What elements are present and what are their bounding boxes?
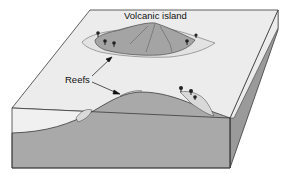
label-reefs: Reefs xyxy=(65,74,90,85)
volcanic-island-diagram: Volcanic island Reefs xyxy=(0,0,294,174)
label-volcanic-island: Volcanic island xyxy=(124,10,187,21)
